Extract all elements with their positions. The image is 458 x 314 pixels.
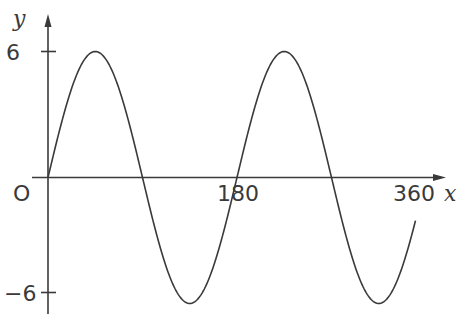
y-tick-label-6: 6 <box>6 40 20 65</box>
y-tick-label-neg6: −6 <box>4 281 36 306</box>
sine-graph: y 6 −6 O 180 360 x <box>0 0 458 314</box>
x-axis-arrow-icon <box>433 174 446 181</box>
y-axis-arrow-icon <box>45 14 52 27</box>
x-tick-label-180: 180 <box>217 181 259 206</box>
y-axis-label: y <box>12 6 26 31</box>
x-tick-label-360: 360 <box>393 181 435 206</box>
origin-label: O <box>13 181 30 206</box>
x-axis-label: x <box>444 181 457 206</box>
